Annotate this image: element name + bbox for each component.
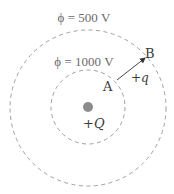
label-phi-1000: ϕ = 1000 V bbox=[54, 54, 114, 69]
label-phi-500: ϕ = 500 V bbox=[58, 10, 111, 25]
equipotential-diagram: ϕ = 500 V ϕ = 1000 V A B +q +Q bbox=[0, 0, 174, 194]
label-point-b: B bbox=[145, 46, 155, 61]
label-test-charge: +q bbox=[131, 71, 149, 85]
source-charge-dot bbox=[83, 102, 93, 112]
label-point-a: A bbox=[102, 79, 113, 94]
label-source-charge: +Q bbox=[83, 116, 105, 131]
